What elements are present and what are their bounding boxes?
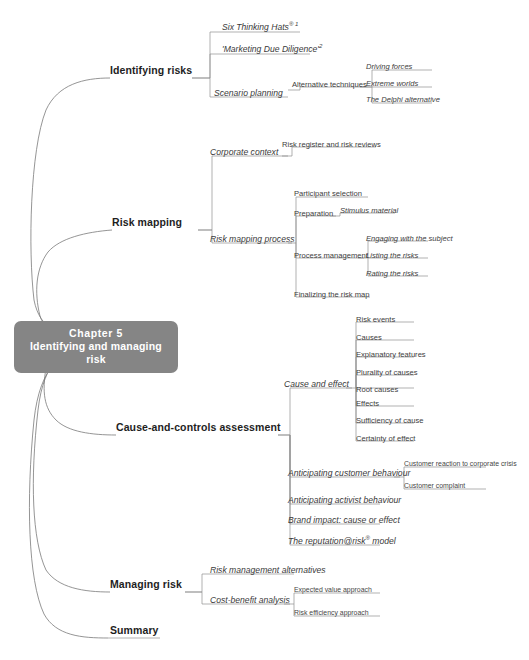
node-alternative-techniques[interactable]: Alternative techniques bbox=[292, 80, 367, 89]
node-engaging-with-the-subject[interactable]: Engaging with the subject bbox=[366, 234, 453, 243]
node-the-delphi-alternative[interactable]: The Delphi alternative bbox=[366, 95, 440, 104]
node-certainty-of-effect[interactable]: Certainty of effect bbox=[356, 434, 415, 443]
node-participant-selection[interactable]: Participant selection bbox=[294, 189, 362, 198]
node-risk-efficiency-approach[interactable]: Risk efficiency approach bbox=[294, 609, 369, 616]
node-expected-value-approach[interactable]: Expected value approach bbox=[294, 586, 372, 593]
node-six-thinking-hats-label: Six Thinking Hats bbox=[222, 22, 289, 32]
branch-summary[interactable]: Summary bbox=[110, 624, 159, 636]
node-the-reputation-at-risk-model[interactable]: The reputation@risk® model bbox=[288, 536, 396, 546]
link-to-summary bbox=[29, 347, 108, 638]
node-extreme-worlds[interactable]: Extreme worlds bbox=[366, 79, 418, 88]
node-reputation-at-risk-label: The reputation@risk bbox=[288, 536, 366, 546]
node-reputation-at-risk-tail: model bbox=[370, 536, 396, 546]
link-marketing-due-diligence bbox=[210, 54, 310, 78]
central-node-line2: Identifying and managing risk bbox=[22, 340, 170, 366]
link-causes bbox=[356, 340, 414, 388]
node-cause-and-effect[interactable]: Cause and effect bbox=[284, 379, 349, 389]
central-node-line1: Chapter 5 bbox=[22, 327, 170, 340]
node-corporate-context[interactable]: Corporate context bbox=[210, 147, 278, 157]
link-cause-and-effect bbox=[278, 388, 352, 435]
node-risk-mapping-process[interactable]: Risk mapping process bbox=[210, 234, 295, 244]
node-plurality-of-causes[interactable]: Plurality of causes bbox=[356, 368, 418, 377]
link-expected-value-approach bbox=[284, 593, 380, 604]
node-anticipating-customer-behaviour[interactable]: Anticipating customer behaviour bbox=[288, 468, 410, 478]
branch-risk-mapping[interactable]: Risk mapping bbox=[112, 216, 182, 228]
node-sufficiency-of-cause[interactable]: Sufficiency of cause bbox=[356, 416, 423, 425]
node-cost-benefit-analysis[interactable]: Cost-benefit analysis bbox=[210, 595, 290, 605]
link-participant-selection bbox=[288, 197, 368, 243]
central-node[interactable]: Chapter 5 Identifying and managing risk bbox=[14, 321, 178, 373]
link-risk-management-alternatives bbox=[185, 574, 294, 592]
node-risk-events[interactable]: Risk events bbox=[356, 315, 395, 324]
branch-cause-and-controls-assessment[interactable]: Cause-and-controls assessment bbox=[116, 421, 281, 433]
node-anticipating-activist-behaviour[interactable]: Anticipating activist behaviour bbox=[288, 495, 401, 505]
node-driving-forces[interactable]: Driving forces bbox=[366, 62, 412, 71]
node-effects[interactable]: Effects bbox=[356, 399, 379, 408]
node-risk-register-and-risk-reviews[interactable]: Risk register and risk reviews bbox=[282, 140, 381, 149]
node-marketing-due-diligence-sup: 2 bbox=[319, 43, 322, 49]
link-six-thinking-hats bbox=[192, 32, 300, 78]
node-stimulus-material[interactable]: Stimulus material bbox=[340, 206, 398, 215]
link-to-identifying-risks bbox=[31, 78, 110, 338]
node-root-causes[interactable]: Root causes bbox=[356, 385, 398, 394]
node-six-thinking-hats-sup: ® 1 bbox=[289, 21, 298, 27]
link-preparation bbox=[296, 216, 336, 243]
node-listing-the-risks[interactable]: Listing the risks bbox=[366, 251, 418, 260]
branch-managing-risk[interactable]: Managing risk bbox=[110, 578, 182, 590]
link-corporate-context bbox=[198, 156, 288, 230]
node-finalizing-the-risk-map[interactable]: Finalizing the risk map bbox=[294, 290, 370, 299]
node-causes[interactable]: Causes bbox=[356, 333, 382, 342]
link-to-managing-risk bbox=[33, 345, 110, 592]
branch-identifying-risks[interactable]: Identifying risks bbox=[110, 64, 192, 76]
node-scenario-planning[interactable]: Scenario planning bbox=[214, 88, 283, 98]
node-risk-management-alternatives[interactable]: Risk management alternatives bbox=[210, 565, 326, 575]
node-customer-reaction-to-corporate-crisis[interactable]: Customer reaction to corporate crisis bbox=[404, 460, 517, 467]
mindmap-canvas: Chapter 5 Identifying and managing risk … bbox=[0, 0, 529, 660]
link-brand-impact bbox=[290, 435, 380, 524]
node-marketing-due-diligence[interactable]: 'Marketing Due Diligence'2 bbox=[222, 44, 322, 54]
node-marketing-due-diligence-label: 'Marketing Due Diligence' bbox=[222, 44, 319, 54]
link-reputation-at-risk bbox=[290, 435, 380, 545]
node-customer-complaint[interactable]: Customer complaint bbox=[404, 482, 465, 489]
node-preparation[interactable]: Preparation bbox=[294, 209, 333, 218]
node-rating-the-risks[interactable]: Rating the risks bbox=[366, 269, 418, 278]
node-brand-impact-cause-or-effect[interactable]: Brand impact: cause or effect bbox=[288, 515, 400, 525]
node-explanatory-features[interactable]: Explanatory features bbox=[356, 350, 426, 359]
node-six-thinking-hats[interactable]: Six Thinking Hats® 1 bbox=[222, 22, 298, 32]
node-process-management[interactable]: Process management bbox=[294, 251, 368, 260]
